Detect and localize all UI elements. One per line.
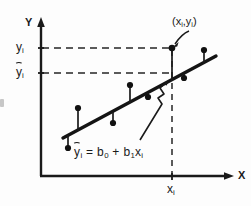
data-point: [201, 47, 207, 53]
tick-label-x-value: xi: [167, 183, 175, 197]
tick-label-y-observed: yi: [16, 41, 24, 55]
data-point: [181, 75, 187, 81]
regression-line: [63, 56, 216, 138]
y-axis-label: Y: [25, 17, 32, 28]
x-axis-label: X: [238, 170, 245, 181]
data-point: [110, 120, 116, 126]
point-callout-arrow-group: [172, 31, 189, 47]
equation-x-subscript: i: [141, 151, 143, 160]
data-point: [65, 145, 71, 151]
tick-label-y-fitted-subscript: i: [22, 71, 24, 80]
equation-b1-symbol: b: [123, 145, 130, 159]
data-point: [75, 105, 81, 111]
regression-equation-label: yi = b0 + b1xi: [74, 146, 143, 160]
regression-diagram: Y X yi yi xi (xi,yi) yi = b0 + b1xi: [0, 0, 251, 206]
data-point-xi-yi: [169, 45, 176, 52]
equation-plus-sign: +: [112, 145, 119, 159]
scan-edge-artifact: [0, 99, 4, 107]
data-point: [127, 82, 133, 88]
callout-close-paren: ): [193, 15, 197, 27]
data-point: [145, 94, 151, 100]
tick-label-x-value-subscript: i: [173, 188, 175, 197]
y-axis-arrowhead: [37, 17, 45, 27]
equation-lhs-symbol: y: [74, 146, 80, 158]
tick-label-y-observed-subscript: i: [22, 46, 24, 55]
x-axis-arrowhead: [224, 172, 234, 180]
point-callout-label: (xi,yi): [172, 16, 197, 28]
equation-lhs-subscript: i: [80, 151, 82, 160]
tick-label-y-fitted: yi: [16, 66, 24, 80]
point-callout-arrow: [175, 31, 189, 44]
tick-label-y-fitted-symbol: y: [16, 66, 22, 78]
equation-b0-subscript: 0: [104, 151, 108, 160]
equation-equals-sign: =: [86, 145, 93, 159]
figure-canvas: [0, 0, 251, 206]
